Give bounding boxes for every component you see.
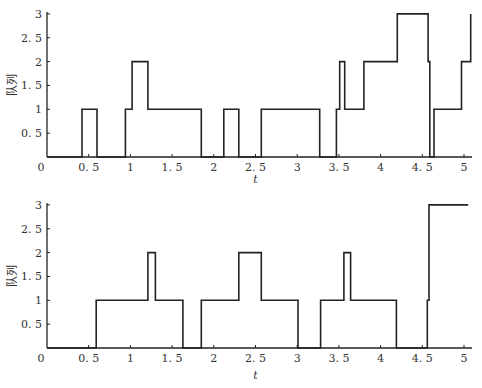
x-axis-title: t: [253, 369, 258, 382]
x-tick-label: 1: [127, 161, 134, 174]
y-tick-label: 1: [35, 103, 42, 116]
x-tick-label: 0: [38, 161, 45, 174]
x-tick-label: 3. 5: [328, 352, 349, 365]
y-tick-label: 2: [35, 247, 42, 260]
x-tick-label: 3. 5: [328, 161, 349, 174]
chart-figure: 00. 511. 522. 533. 544. 550. 511. 522. 5…: [0, 0, 482, 388]
x-tick-label: 3: [294, 352, 301, 365]
y-ticks: 0. 511. 522. 53: [21, 199, 50, 331]
x-tick-label: 1. 5: [162, 352, 183, 365]
y-ticks: 0. 511. 522. 53: [21, 8, 50, 140]
y-tick-label: 2: [35, 56, 42, 69]
x-tick-label: 3: [294, 161, 301, 174]
x-tick-label: 4: [377, 161, 384, 174]
y-tick-label: 1. 5: [21, 79, 42, 92]
x-tick-label: 4. 5: [412, 352, 433, 365]
x-tick-label: 2. 5: [245, 352, 266, 365]
y-tick-label: 3: [35, 199, 42, 212]
y-tick-label: 0. 5: [21, 127, 42, 140]
queue-step-line: [47, 14, 471, 157]
queue-step-line: [47, 205, 468, 348]
x-tick-label: 4. 5: [412, 161, 433, 174]
x-tick-label: 5: [461, 161, 468, 174]
axes: [47, 203, 472, 348]
y-tick-label: 0. 5: [21, 318, 42, 331]
chart-canvas: 00. 511. 522. 533. 544. 550. 511. 522. 5…: [0, 0, 482, 388]
x-tick-label: 1. 5: [162, 161, 183, 174]
x-tick-label: 1: [127, 352, 134, 365]
x-axis-title: t: [253, 173, 258, 186]
x-tick-label: 0. 5: [78, 161, 99, 174]
x-tick-label: 2: [210, 161, 217, 174]
x-tick-label: 2: [210, 352, 217, 365]
y-tick-label: 1. 5: [21, 270, 42, 283]
x-tick-label: 4: [377, 352, 384, 365]
x-tick-label: 5: [461, 352, 468, 365]
top-queue-plot: 00. 511. 522. 533. 544. 550. 511. 522. 5…: [5, 8, 472, 186]
y-axis-title: 队列: [5, 74, 19, 96]
y-tick-label: 1: [35, 294, 42, 307]
x-tick-label: 0. 5: [78, 352, 99, 365]
y-tick-label: 2. 5: [21, 223, 42, 236]
y-tick-label: 2. 5: [21, 32, 42, 45]
y-axis-title: 队列: [5, 265, 19, 287]
y-tick-label: 3: [35, 8, 42, 21]
x-tick-label: 0: [38, 352, 45, 365]
bottom-queue-plot: 00. 511. 522. 533. 544. 550. 511. 522. 5…: [5, 199, 472, 382]
axes: [47, 12, 472, 157]
